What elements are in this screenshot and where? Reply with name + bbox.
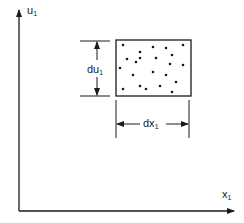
particle-dot <box>165 47 168 50</box>
particle-dot <box>122 44 125 47</box>
particle-dot <box>135 61 138 64</box>
phase-volume-box <box>116 40 191 96</box>
particle-dot <box>139 85 142 88</box>
particle-dot <box>175 81 178 84</box>
particle-dot <box>171 54 174 57</box>
particle-dot <box>152 71 155 74</box>
particle-dot <box>119 67 122 70</box>
du-label: du1 <box>86 64 104 76</box>
particle-dot <box>152 46 155 49</box>
phase-space-diagram <box>0 0 244 223</box>
particle-dot <box>145 88 148 91</box>
y-axis-label: u1 <box>27 5 37 17</box>
particle-dot <box>139 57 142 60</box>
particle-dot <box>182 44 185 47</box>
particle-dot <box>171 91 174 94</box>
particle-dot <box>132 74 135 77</box>
dx-label: dx1 <box>143 118 159 130</box>
x-axis-label: x1 <box>222 189 231 201</box>
particle-dot <box>169 63 172 66</box>
particle-dot <box>155 57 158 60</box>
particle-dot <box>122 88 125 91</box>
particle-dot <box>126 58 129 61</box>
particle-dot <box>165 74 168 77</box>
particle-dot <box>139 51 142 54</box>
particle-dots <box>119 44 185 94</box>
particle-dot <box>159 85 162 88</box>
particle-dot <box>182 64 185 67</box>
